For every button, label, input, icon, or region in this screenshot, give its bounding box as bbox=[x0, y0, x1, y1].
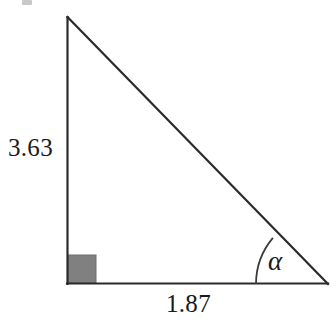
hypotenuse-line bbox=[68, 17, 329, 284]
triangle-svg bbox=[0, 0, 336, 324]
right-angle-marker-icon bbox=[68, 255, 96, 283]
triangle-figure: 3.63 1.87 α bbox=[0, 0, 336, 324]
angle-alpha-label: α bbox=[268, 248, 282, 275]
horizontal-leg-label: 1.87 bbox=[166, 291, 211, 316]
vertical-leg-label: 3.63 bbox=[8, 135, 53, 160]
